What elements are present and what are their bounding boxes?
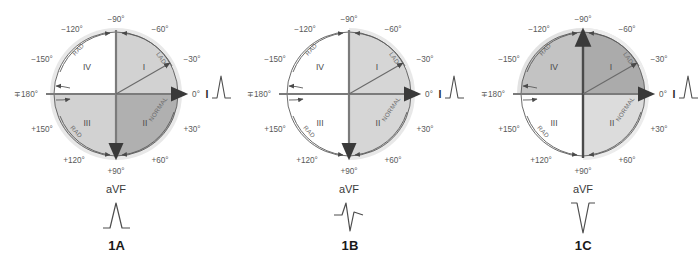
degree-label-plus-90: +90° <box>341 167 358 176</box>
degree-label-minus-60: −60° <box>618 25 635 34</box>
panel-caption-1a: 1A <box>0 238 233 253</box>
quadrant-label-3: III <box>550 118 557 128</box>
degree-label-plus-minus-180: ∓180° <box>14 90 38 99</box>
degree-label-minus-150: −150° <box>498 55 520 64</box>
degree-label-plus-120: +120° <box>530 156 552 165</box>
degree-label-plus-30: +30° <box>183 125 200 134</box>
degree-label-plus-minus-180: ∓180° <box>481 90 505 99</box>
figure-row: RAD LAD RAD NORMAL I II III IV −90° −120… <box>0 0 700 272</box>
avf-label: aVF <box>106 183 126 195</box>
degree-label-plus-60: +60° <box>385 156 402 165</box>
degree-label-minus-60: −60° <box>385 25 402 34</box>
degree-label-minus-120: −120° <box>528 25 550 34</box>
avf-waveform <box>103 203 130 228</box>
avf-waveform <box>571 203 595 233</box>
degree-label-plus-120: +120° <box>63 156 85 165</box>
quadrant-label-1: I <box>376 62 378 72</box>
degree-label-minus-30: −30° <box>650 55 667 64</box>
lead-one-waveform <box>679 76 698 98</box>
lead-one-waveform <box>212 76 231 98</box>
degree-label-minus-120: −120° <box>294 25 316 34</box>
quadrant-label-4: IV <box>83 62 91 72</box>
quadrant-label-2: II <box>609 118 614 128</box>
degree-label-plus-60: +60° <box>151 156 168 165</box>
lead-one-label: I <box>206 88 209 100</box>
avf-label: aVF <box>573 183 593 195</box>
degree-label-plus-90: +90° <box>574 167 591 176</box>
degree-label-minus-90: −90° <box>341 15 358 24</box>
degree-label-plus-minus-180: ∓180° <box>247 90 271 99</box>
quadrant-label-4: IV <box>550 62 558 72</box>
quadrant-label-1: I <box>609 62 611 72</box>
panel-1a: RAD LAD RAD NORMAL I II III IV −90° −120… <box>0 0 233 272</box>
degree-label-zero: 0° <box>659 90 667 99</box>
lead-one-waveform <box>445 76 464 98</box>
degree-label-plus-60: +60° <box>618 156 635 165</box>
quadrant-label-1: I <box>143 62 145 72</box>
quadrant-label-3: III <box>317 118 324 128</box>
degree-label-minus-90: −90° <box>574 15 591 24</box>
avf-waveform <box>334 203 363 231</box>
degree-label-plus-150: +150° <box>31 125 53 134</box>
degree-label-plus-30: +30° <box>417 125 434 134</box>
degree-label-minus-30: −30° <box>183 55 200 64</box>
degree-label-plus-150: +150° <box>498 125 520 134</box>
panel-caption-1b: 1B <box>233 238 466 253</box>
degree-label-plus-120: +120° <box>296 156 318 165</box>
panel-caption-1c: 1C <box>467 238 700 253</box>
lead-one-label: I <box>672 88 675 100</box>
axis-diagram-1a: RAD LAD RAD NORMAL I II III IV −90° −120… <box>0 0 233 272</box>
degree-label-plus-150: +150° <box>264 125 286 134</box>
lead-one-label: I <box>439 88 442 100</box>
degree-label-minus-60: −60° <box>151 25 168 34</box>
quadrant-label-3: III <box>83 118 90 128</box>
avf-label: aVF <box>339 183 359 195</box>
panel-1c: RAD LAD RAD NORMAL I II III IV −90° −120… <box>467 0 700 272</box>
quadrant-label-2: II <box>143 118 148 128</box>
degree-label-minus-30: −30° <box>417 55 434 64</box>
quadrant-1-shade <box>116 32 178 94</box>
axis-diagram-1c: RAD LAD RAD NORMAL I II III IV −90° −120… <box>467 0 700 272</box>
degree-label-minus-90: −90° <box>107 15 124 24</box>
degree-label-zero: 0° <box>192 90 200 99</box>
quadrant-1-shade <box>349 32 411 94</box>
degree-label-plus-30: +30° <box>650 125 667 134</box>
degree-label-minus-150: −150° <box>264 55 286 64</box>
degree-label-zero: 0° <box>425 90 433 99</box>
degree-label-minus-120: −120° <box>61 25 83 34</box>
axis-diagram-1b: RAD LAD RAD NORMAL I II III IV −90° −120… <box>233 0 466 272</box>
degree-label-minus-150: −150° <box>31 55 53 64</box>
panel-1b: RAD LAD RAD NORMAL I II III IV −90° −120… <box>233 0 466 272</box>
degree-label-plus-90: +90° <box>107 167 124 176</box>
quadrant-1-shade <box>583 32 645 94</box>
quadrant-label-4: IV <box>316 62 324 72</box>
quadrant-label-2: II <box>376 118 381 128</box>
